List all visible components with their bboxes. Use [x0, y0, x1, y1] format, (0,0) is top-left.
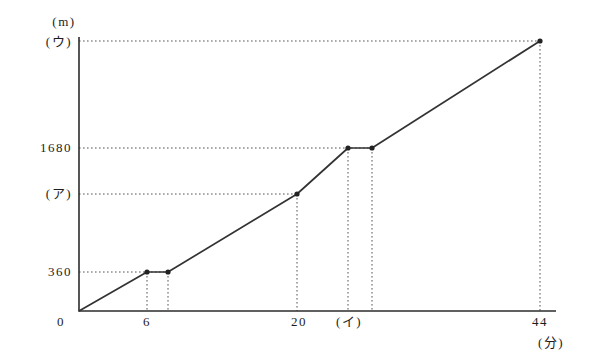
data-point-i	[345, 145, 350, 150]
data-point-rest-end-2	[369, 145, 374, 150]
x-tick-label-i: (イ)	[325, 315, 373, 328]
y-tick-label-u: (ウ)	[4, 35, 72, 48]
data-point-rest-end-1	[165, 269, 170, 274]
graph-figure: (m) (ウ) 1680 (ア) 360 0 6 20 (イ) 44 (分)	[0, 0, 594, 357]
vertical-guide-lines	[147, 41, 540, 311]
y-tick-label-a: (ア)	[4, 187, 72, 200]
data-point-markers	[144, 38, 542, 274]
origin-label: 0	[49, 315, 73, 328]
x-tick-label-6: 6	[127, 315, 167, 328]
axes	[79, 37, 556, 311]
data-point-20	[294, 191, 299, 196]
x-axis-unit-label: (分)	[528, 336, 574, 349]
y-tick-label-1680: 1680	[4, 141, 72, 154]
horizontal-guide-lines	[79, 41, 540, 272]
y-axis-unit-label: (m)	[34, 15, 94, 28]
x-tick-label-44: 44	[518, 315, 562, 328]
x-tick-label-20: 20	[277, 315, 321, 328]
line-chart-canvas	[0, 0, 594, 357]
y-tick-label-360: 360	[4, 265, 72, 278]
data-point-6	[144, 269, 149, 274]
data-point-44	[537, 38, 542, 43]
